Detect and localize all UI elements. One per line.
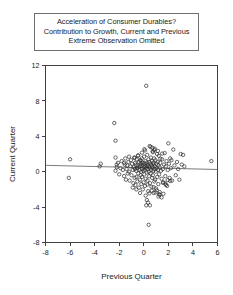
plot-svg: -8-6-4-20246-8-404812Previous QuarterCur…	[0, 0, 233, 295]
x-axis-title: Previous Quarter	[101, 272, 162, 281]
plot-frame	[46, 66, 218, 243]
data-point	[157, 182, 160, 185]
y-tick-label: 12	[32, 61, 40, 70]
data-point	[67, 176, 70, 179]
data-point	[114, 169, 117, 172]
data-point	[68, 158, 71, 161]
scatter-plot: -8-6-4-20246-8-404812Previous QuarterCur…	[0, 0, 233, 295]
data-point	[138, 191, 141, 194]
data-point	[146, 153, 149, 156]
x-tick-label: -8	[42, 248, 48, 257]
data-point	[124, 157, 127, 160]
data-point	[114, 156, 117, 159]
data-point	[176, 167, 179, 170]
data-point	[121, 168, 124, 171]
y-tick-label: -8	[33, 238, 39, 247]
data-point	[157, 173, 160, 176]
x-tick-label: -6	[67, 248, 73, 257]
data-point	[124, 178, 127, 181]
x-tick-label: -2	[116, 248, 122, 257]
data-point	[135, 188, 138, 191]
data-point	[144, 194, 147, 197]
data-point	[156, 149, 159, 152]
data-point	[174, 174, 177, 177]
chart-figure: Acceleration of Consumer Durables? Contr…	[0, 0, 233, 295]
y-tick-label: -4	[33, 203, 39, 212]
data-point	[210, 159, 213, 162]
data-point	[160, 196, 163, 199]
y-tick-label: 4	[36, 132, 40, 141]
data-point	[114, 139, 117, 142]
y-tick-label: 0	[36, 167, 40, 176]
data-point	[141, 188, 144, 191]
y-tick-label: 8	[36, 97, 40, 106]
data-point	[167, 142, 170, 145]
x-tick-label: 4	[191, 248, 195, 257]
data-point	[172, 148, 175, 151]
data-point	[130, 174, 133, 177]
x-tick-label: 2	[166, 248, 170, 257]
data-point	[128, 179, 131, 182]
data-point	[161, 152, 164, 155]
data-point	[129, 158, 132, 161]
data-point	[140, 151, 143, 154]
data-point	[164, 174, 167, 177]
data-point	[118, 173, 121, 176]
data-point	[175, 160, 178, 163]
data-point	[178, 178, 181, 181]
data-point	[131, 186, 134, 189]
data-point	[145, 84, 148, 87]
data-point	[127, 155, 130, 158]
data-point	[113, 121, 116, 124]
data-point	[173, 164, 176, 167]
x-tick-label: 6	[216, 248, 220, 257]
data-point	[167, 162, 170, 165]
x-tick-label: -4	[91, 248, 97, 257]
data-point	[183, 165, 186, 168]
data-point	[147, 223, 150, 226]
data-point	[162, 192, 165, 195]
data-point	[160, 177, 163, 180]
y-axis-title: Current Quarter	[8, 126, 17, 182]
x-tick-label: 0	[142, 248, 146, 257]
data-point	[122, 174, 125, 177]
